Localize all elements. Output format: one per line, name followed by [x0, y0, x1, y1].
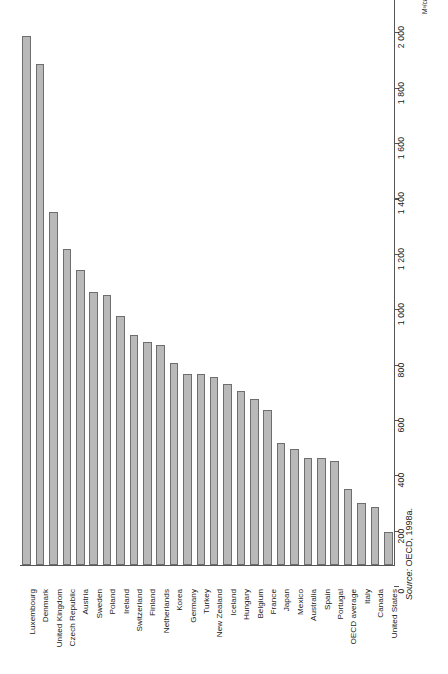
- bar: [317, 458, 326, 565]
- bar: [197, 374, 206, 565]
- bar: [277, 443, 286, 565]
- axis-tick-label: 1 000: [396, 303, 406, 326]
- bar: [143, 342, 152, 565]
- category-axis: LuxembourgDenmarkUnited KingdomCzech Rep…: [0, 589, 400, 674]
- category-label: Portugal: [335, 589, 344, 620]
- bar: [89, 292, 98, 565]
- category-label: Belgium: [255, 589, 264, 619]
- category-label: Poland: [108, 589, 117, 615]
- bar: [36, 64, 45, 565]
- axis-tick-label: 400: [396, 473, 406, 488]
- bar: [250, 399, 259, 565]
- category-label: Japan: [282, 589, 291, 611]
- category-label: OECD average: [349, 589, 358, 644]
- category-label: Luxembourg: [27, 589, 36, 635]
- bar: [237, 391, 246, 565]
- category-label: Italy: [362, 589, 371, 604]
- source-text: OECD, 1998a.: [404, 508, 414, 567]
- bar: [210, 377, 219, 565]
- category-label: Czech Republic: [68, 589, 77, 646]
- value-axis: M³/capita/year 02004006008001 0001 2001 …: [394, 0, 448, 600]
- category-label: United Kingdom: [54, 589, 63, 647]
- bar: [156, 345, 165, 565]
- bar: [330, 461, 339, 565]
- category-label: France: [268, 589, 277, 615]
- axis-unit-label: M³/capita/year: [421, 0, 428, 14]
- category-label: Turkey: [202, 589, 211, 614]
- category-label: Finland: [148, 589, 157, 616]
- axis-tick-label: 1 600: [396, 137, 406, 160]
- axis-tick-label: 800: [396, 362, 406, 377]
- bar: [223, 384, 232, 565]
- axis-tick-label: 600: [396, 417, 406, 432]
- source-prefix: Source:: [404, 569, 414, 600]
- axis-tick-label: 2 000: [396, 26, 406, 49]
- chart-plot-stage: [20, 0, 400, 566]
- axis-tick-label: 1 800: [396, 81, 406, 104]
- axis-tick-mark: [394, 586, 399, 587]
- category-label: Switzerland: [135, 589, 144, 631]
- bar: [290, 449, 299, 565]
- bar: [263, 410, 272, 565]
- category-label: Denmark: [41, 589, 50, 622]
- axis-tick-label: 1 400: [396, 192, 406, 215]
- bar: [304, 458, 313, 565]
- bar: [22, 36, 31, 565]
- plot-area: [20, 0, 395, 566]
- bar: [130, 335, 139, 565]
- bar: [103, 295, 112, 565]
- category-label: New Zealand: [215, 589, 224, 637]
- bar: [76, 270, 85, 565]
- category-label: Netherlands: [161, 589, 170, 633]
- bar: [371, 507, 380, 565]
- bar: [384, 532, 393, 565]
- bar: [49, 212, 58, 565]
- category-label: Iceland: [228, 589, 237, 615]
- category-label: Australia: [309, 589, 318, 621]
- bar: [116, 316, 125, 565]
- chart-figure: M³/capita/year 02004006008001 0001 2001 …: [0, 0, 448, 674]
- category-label: Germany: [188, 589, 197, 623]
- axis-tick-label: 1 200: [396, 248, 406, 271]
- category-label: Spain: [322, 589, 331, 610]
- source-note: Source: OECD, 1998a.: [404, 508, 414, 600]
- bar: [170, 363, 179, 565]
- bar: [357, 503, 366, 565]
- category-label: Hungary: [242, 589, 251, 620]
- bar: [63, 249, 72, 565]
- category-label: Ireland: [121, 589, 130, 614]
- category-label: Mexico: [295, 589, 304, 615]
- bar: [344, 489, 353, 565]
- category-label: Korea: [175, 589, 184, 611]
- bar: [183, 374, 192, 565]
- category-label: Canada: [376, 589, 385, 618]
- category-label: Austria: [81, 589, 90, 615]
- category-label: Sweden: [94, 589, 103, 619]
- category-label: United States: [389, 589, 398, 638]
